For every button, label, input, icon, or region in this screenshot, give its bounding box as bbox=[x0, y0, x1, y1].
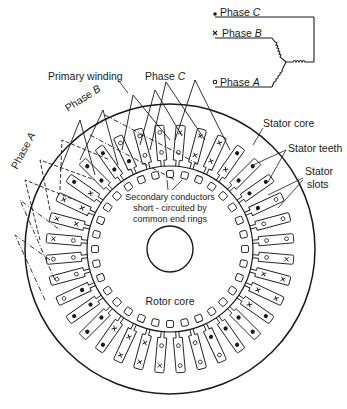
phase-c-conductor-dot-icon bbox=[71, 179, 77, 185]
phase-c-conductor-dot-icon bbox=[100, 342, 106, 348]
stator-slot bbox=[95, 145, 126, 184]
primary-winding-arrow bbox=[118, 80, 128, 93]
phase-a-conductor-circle-icon bbox=[158, 130, 162, 134]
stator-outer-boundary bbox=[25, 104, 315, 394]
rotor-conductor-slot bbox=[103, 202, 113, 212]
rotor-conductor-slot bbox=[103, 286, 113, 296]
secondary-conductors-label-3: common end rings bbox=[133, 214, 208, 224]
phase-c-conductor-dot-icon bbox=[111, 167, 117, 173]
phase-c-conductor-dot-icon bbox=[84, 329, 90, 335]
phase-b-conductor-cross-icon bbox=[137, 360, 142, 365]
stator-slot bbox=[187, 128, 206, 170]
stator-slot bbox=[46, 234, 88, 247]
rotor-conductor-slot bbox=[239, 230, 247, 238]
stator-slot bbox=[133, 328, 152, 370]
phase-c-dot-icon bbox=[213, 12, 217, 16]
legend-phase-c: Phase C bbox=[220, 6, 261, 18]
phase-c-conductor-dot-icon bbox=[234, 342, 240, 348]
phase-c-conductor-dot-icon bbox=[236, 315, 242, 321]
rotor-conductor-slot bbox=[123, 307, 133, 317]
stator-core-label: Stator core bbox=[263, 117, 315, 129]
stator-slots-label-2: slots bbox=[307, 178, 329, 190]
rotor-conductor-slot bbox=[96, 216, 105, 225]
phase-a-conductor-circle-icon bbox=[193, 340, 198, 345]
stator-slot bbox=[235, 174, 274, 205]
phase-b-conductor-cross-icon bbox=[193, 153, 198, 158]
stator-slot bbox=[249, 266, 291, 285]
stator-slot bbox=[79, 304, 114, 339]
rotor-conductor-slot bbox=[167, 321, 174, 328]
phase-b-conductor-cross-icon bbox=[88, 191, 94, 197]
stator-slot bbox=[252, 234, 294, 247]
induction-motor-diagram: Phase C Phase B Phase A Primary winding … bbox=[0, 0, 347, 409]
rotor-conductor-slot bbox=[112, 191, 122, 201]
phase-a-conductor-circle-icon bbox=[118, 140, 123, 145]
phase-b-conductor-cross-icon bbox=[217, 140, 222, 145]
rotor-conductor-slot bbox=[112, 297, 122, 307]
phase-b-conductor-cross-icon bbox=[79, 205, 84, 210]
legend-phase-a: Phase A bbox=[220, 76, 260, 88]
stator-slot bbox=[95, 314, 126, 353]
secondary-conductors-label-1: Secondary conductors bbox=[125, 192, 215, 202]
rotor-conductor-slot bbox=[137, 314, 146, 323]
phase-a-conductor-circle-icon bbox=[178, 363, 182, 367]
phase-b-winding-label: Phase B bbox=[63, 82, 103, 114]
rotor-conductor-slot bbox=[207, 307, 217, 317]
rotor-conductor-slot bbox=[151, 171, 159, 179]
phase-b-conductor-cross-icon bbox=[126, 334, 131, 339]
stator-teeth-arrow-1 bbox=[253, 150, 286, 165]
shaft-hole bbox=[147, 226, 193, 272]
stator-slot bbox=[225, 304, 260, 339]
phase-b-conductor-cross-icon bbox=[55, 216, 60, 221]
stator-slot bbox=[249, 212, 291, 231]
stator-slot bbox=[173, 125, 186, 167]
rotor-conductor-slot bbox=[235, 273, 244, 282]
phase-c-conductor-dot-icon bbox=[208, 334, 214, 340]
phase-a-conductor-circle-icon bbox=[159, 150, 163, 154]
rotor-conductor-slot bbox=[194, 314, 203, 323]
phase-c-conductor-dot-icon bbox=[71, 313, 77, 319]
rotor-conductor-slot bbox=[123, 182, 133, 192]
phase-a-conductor-circle-icon bbox=[284, 237, 288, 241]
rotor-conductor-slot bbox=[218, 191, 228, 201]
stator-slot bbox=[187, 328, 206, 370]
rotor-conductor-slot bbox=[92, 230, 100, 238]
phase-c-conductor-dot-icon bbox=[236, 177, 242, 183]
phase-b-conductor-cross-icon bbox=[51, 237, 55, 241]
phase-c-conductor-dot-icon bbox=[250, 329, 256, 335]
phase-a-conductor-circle-icon bbox=[143, 153, 148, 158]
primary-winding-label: Primary winding bbox=[48, 70, 123, 82]
stator-slot bbox=[214, 145, 245, 184]
phase-b-conductor-cross-icon bbox=[61, 197, 66, 202]
phase-b-conductor-cross-icon bbox=[255, 287, 260, 292]
stator-slot bbox=[113, 322, 139, 363]
phase-b-conductor-cross-icon bbox=[261, 272, 266, 277]
phase-a-conductor-circle-icon bbox=[274, 197, 279, 202]
phase-a-conductor-circle-icon bbox=[61, 296, 66, 301]
phase-a-conductor-circle-icon bbox=[265, 255, 269, 259]
phase-c-conductor-dot-icon bbox=[79, 287, 85, 293]
secondary-conductors-label-2: short - circuited by bbox=[133, 203, 207, 213]
stator-slot bbox=[155, 331, 168, 373]
phase-a-conductor-circle-icon bbox=[55, 277, 60, 282]
stator-slot bbox=[49, 266, 91, 285]
phase-b-conductor-cross-icon bbox=[273, 296, 278, 301]
rotor-conductor-slot bbox=[228, 286, 238, 296]
phase-a-conductor-circle-icon bbox=[51, 257, 55, 261]
rotor-conductor-slot bbox=[218, 297, 228, 307]
phase-b-conductor-cross-icon bbox=[281, 277, 286, 282]
phase-a-conductor-circle-icon bbox=[281, 216, 286, 221]
phase-c-conductor-dot-icon bbox=[126, 158, 132, 164]
stator-slot bbox=[56, 280, 97, 306]
stator-slot bbox=[201, 135, 227, 176]
secondary-arrow-2 bbox=[172, 180, 182, 190]
rotor-conductor-slot bbox=[242, 246, 249, 253]
stator-slot bbox=[243, 192, 284, 218]
rotor-conductor-slot bbox=[92, 246, 99, 253]
stator-slots-label-1: Stator bbox=[305, 165, 334, 177]
phase-b-conductor-cross-icon bbox=[142, 340, 147, 345]
stator-slot bbox=[49, 212, 91, 231]
stator-teeth-label: Stator teeth bbox=[288, 142, 342, 154]
primary-winding-lines bbox=[15, 80, 230, 300]
phase-c-conductor-dot-icon bbox=[100, 150, 106, 156]
